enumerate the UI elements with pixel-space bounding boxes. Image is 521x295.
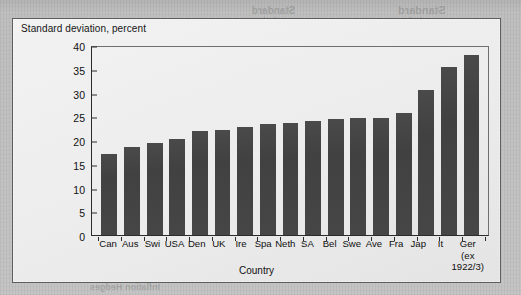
x-tick-label-text: Swe <box>342 238 361 249</box>
bar <box>260 124 276 235</box>
x-tick-label-text: Ave <box>366 238 382 249</box>
bar <box>350 118 366 235</box>
bar <box>441 67 457 235</box>
bar-cell <box>211 47 234 235</box>
x-tick-label-text: Bel <box>323 238 337 249</box>
x-tick-label-text: UK <box>212 238 225 249</box>
chart-figure: Standard deviation, percent 051015202530… <box>12 18 501 283</box>
bar <box>464 55 480 235</box>
bar <box>169 139 185 235</box>
bar-cell <box>460 47 483 235</box>
y-axis-title: Standard deviation, percent <box>21 23 146 34</box>
y-axis-tick-label: 10 <box>73 184 92 196</box>
bar-cell <box>143 47 166 235</box>
bar-cell <box>98 47 121 235</box>
bar-cell <box>279 47 302 235</box>
x-tick-label-text: Swi <box>145 238 160 249</box>
bar <box>396 113 412 235</box>
bar-cell <box>370 47 393 235</box>
y-axis-tick-label: 20 <box>73 136 92 148</box>
x-tick-label-text: Aus <box>122 238 139 249</box>
bar <box>418 90 434 235</box>
bar <box>305 121 321 235</box>
showthrough-text: Standard <box>398 4 446 16</box>
bar <box>237 127 253 235</box>
bar <box>192 131 208 235</box>
bar-series <box>92 47 488 235</box>
bar <box>147 143 163 235</box>
bar-cell <box>256 47 279 235</box>
bar-cell <box>302 47 325 235</box>
y-axis-tick-label: 40 <box>73 41 92 53</box>
x-tick-label-text: Can <box>99 238 117 249</box>
scanned-page: StandardDeviationStandardDeviationMarket… <box>0 0 521 295</box>
plot-area: 0510152025303540 <box>91 46 489 236</box>
x-tick-label-text: Spa <box>255 238 272 249</box>
y-axis-tick-label: 25 <box>73 112 92 124</box>
bar-cell <box>392 47 415 235</box>
x-tick-label-text: SA <box>301 238 314 249</box>
x-tick-label-text: Jap <box>411 238 426 249</box>
x-tick-label-text: It <box>438 238 443 249</box>
showthrough-text: Standard <box>252 5 295 16</box>
x-tick-sublabel: (ex <box>452 250 485 262</box>
bar-cell <box>234 47 257 235</box>
y-axis-tick-label: 35 <box>73 65 92 77</box>
y-axis-tick-label: 30 <box>73 89 92 101</box>
y-axis-tick-label: 15 <box>73 160 92 172</box>
bar <box>124 147 140 235</box>
x-tick-label-text: Ire <box>235 238 246 249</box>
bar <box>215 130 231 235</box>
x-tick-label-text: Den <box>188 238 206 249</box>
bar-cell <box>121 47 144 235</box>
showthrough-text: Inflation Hedges <box>90 282 160 292</box>
bar-cell <box>324 47 347 235</box>
bar <box>283 123 299 235</box>
bar-cell <box>166 47 189 235</box>
bar-cell <box>189 47 212 235</box>
x-tick-label-text: Neth <box>275 238 295 249</box>
bar-cell <box>347 47 370 235</box>
bar-cell <box>415 47 438 235</box>
x-tick-label-text: Fra <box>389 238 403 249</box>
x-axis-title: Country <box>13 265 500 276</box>
bar <box>328 119 344 235</box>
x-tick-label-text: Ger <box>460 238 476 249</box>
bar <box>373 118 389 235</box>
x-tick-label-text: USA <box>165 238 185 249</box>
bar-cell <box>438 47 461 235</box>
bar <box>101 154 117 235</box>
y-axis-tick-label: 5 <box>79 207 92 219</box>
